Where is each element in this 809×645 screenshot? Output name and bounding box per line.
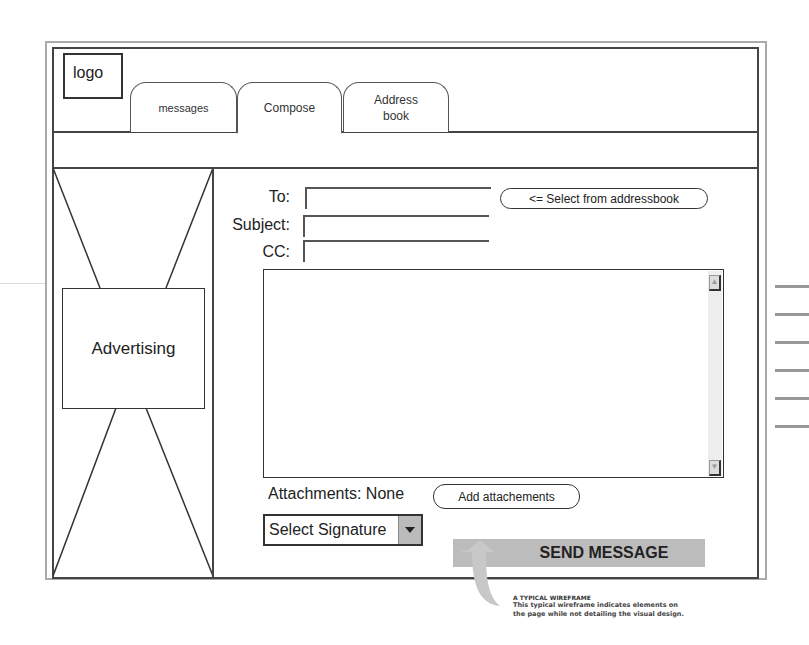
caption-title: A TYPICAL WIREFRAME [513, 594, 753, 601]
advertising-label: Advertising [91, 339, 175, 359]
tab-compose-label: Compose [264, 100, 315, 116]
cc-field[interactable] [303, 240, 489, 262]
to-label: To: [220, 188, 290, 206]
signature-select-value: Select Signature [269, 521, 386, 538]
tab-compose[interactable]: Compose [237, 82, 342, 134]
caption-line-1: This typical wireframe indicates element… [513, 601, 753, 610]
scroll-down-icon[interactable]: ▼ [709, 460, 721, 476]
attachments-label: Attachments: None [268, 485, 404, 503]
tab-messages-label: messages [158, 100, 208, 116]
tab-address-book[interactable]: Address book [343, 82, 449, 132]
select-from-addressbook-button[interactable]: <= Select from addressbook [500, 188, 708, 209]
subject-label: Subject: [220, 216, 290, 234]
add-attachments-button[interactable]: Add attachements [433, 484, 580, 509]
caption-line-2: the page while not detailing the visual … [513, 610, 753, 619]
advertising-box[interactable]: Advertising [62, 288, 205, 409]
signature-select[interactable]: Select Signature [263, 514, 423, 546]
callout-arrow-icon [448, 538, 508, 610]
body-scrollbar[interactable]: ▲ ▼ [708, 271, 722, 476]
tab-address-book-label: Address book [366, 92, 426, 124]
add-attachments-label: Add attachements [458, 490, 555, 504]
decor-right-marks [775, 285, 809, 428]
decor-line-left [0, 283, 45, 284]
select-from-addressbook-label: <= Select from addressbook [529, 192, 679, 206]
message-body-textarea[interactable]: ▲ ▼ [263, 269, 724, 478]
send-message-label: SEND MESSAGE [540, 544, 669, 562]
logo[interactable]: logo [63, 53, 123, 99]
caption: A TYPICAL WIREFRAME This typical wirefra… [513, 594, 753, 619]
scroll-up-icon[interactable]: ▲ [709, 275, 721, 291]
to-field[interactable] [305, 187, 491, 209]
chevron-down-icon [405, 527, 415, 533]
dropdown-button[interactable] [398, 516, 421, 544]
tab-messages[interactable]: messages [130, 82, 237, 132]
cc-label: CC: [220, 243, 290, 261]
subject-field[interactable] [303, 215, 489, 237]
